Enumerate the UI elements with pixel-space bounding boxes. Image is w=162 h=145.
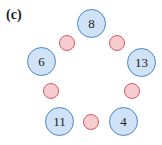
number-value: 8 <box>88 16 95 32</box>
number-circle-13: 13 <box>127 48 156 77</box>
number-value: 11 <box>53 114 66 130</box>
number-value: 4 <box>120 114 127 130</box>
number-circle-11: 11 <box>45 107 74 136</box>
number-value: 13 <box>135 55 148 71</box>
number-circle-4: 4 <box>109 107 138 136</box>
number-value: 6 <box>38 54 45 70</box>
figure-label: (c) <box>6 7 22 23</box>
number-circle-6: 6 <box>27 47 56 76</box>
slot-circle-top-right <box>109 35 125 51</box>
slot-circle-top-left <box>59 35 75 51</box>
number-circle-8: 8 <box>77 9 106 38</box>
slot-circle-right <box>124 83 140 99</box>
slot-circle-left <box>43 83 59 99</box>
slot-circle-bottom <box>83 114 99 130</box>
